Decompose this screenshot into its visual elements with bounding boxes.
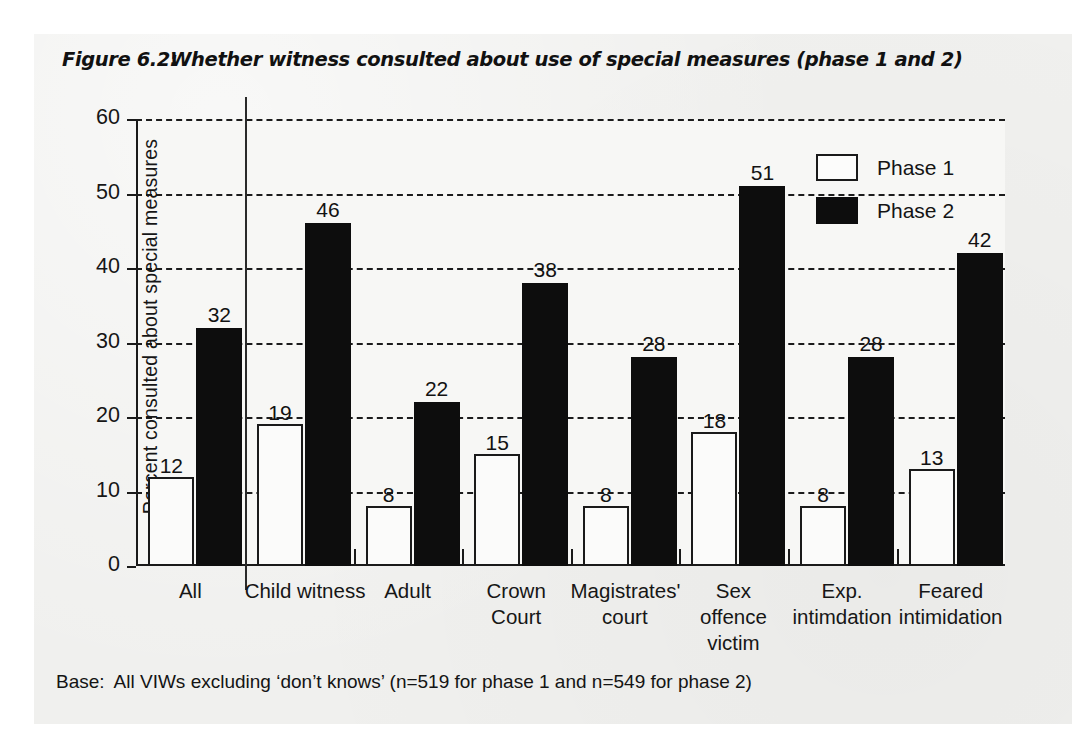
x-axis-tick xyxy=(462,549,464,566)
bar-phase-1[interactable]: 18 xyxy=(691,432,737,566)
x-category-label: Child witness xyxy=(245,578,354,604)
legend-item[interactable]: Phase 1 xyxy=(816,146,1006,189)
y-tick-mark-50 xyxy=(127,194,136,196)
x-category-line: Crown xyxy=(462,578,571,604)
x-category-label: Exp.intimdation xyxy=(788,578,897,630)
bar-phase-1[interactable]: 8 xyxy=(583,506,629,566)
bar-phase-2[interactable]: 22 xyxy=(414,402,460,566)
bar-phase-2[interactable]: 42 xyxy=(957,253,1003,566)
figure-title: Figure 6.2:Whether witness consulted abo… xyxy=(62,48,992,71)
bar-phase-2[interactable]: 32 xyxy=(196,328,242,566)
bar-phase-1[interactable]: 8 xyxy=(800,506,846,566)
x-category-line: Feared xyxy=(896,578,1005,604)
bar-value-label: 32 xyxy=(208,304,231,325)
x-category-line: court xyxy=(571,604,680,630)
bar-value-label: 42 xyxy=(968,229,991,250)
bar-phase-2[interactable]: 51 xyxy=(739,186,785,566)
bar-group: 1538 xyxy=(464,119,573,566)
x-category-label: Magistrates'court xyxy=(571,578,680,630)
y-tick-mark-0 xyxy=(127,566,136,568)
x-category-line: Child witness xyxy=(245,578,354,604)
x-category-line: Exp. xyxy=(788,578,897,604)
x-category-label: CrownCourt xyxy=(462,578,571,630)
legend-swatch-phase-1 xyxy=(816,154,858,181)
y-tick-mark-60 xyxy=(127,119,136,121)
bar-value-label: 19 xyxy=(268,402,291,423)
x-axis-category-labels: AllChild witnessAdultCrownCourtMagistrat… xyxy=(136,578,1005,662)
legend-item[interactable]: Phase 2 xyxy=(816,189,1006,232)
bar-value-label: 15 xyxy=(486,432,509,453)
x-axis-tick xyxy=(897,549,899,566)
bar-value-label: 28 xyxy=(859,333,882,354)
bar-value-label: 8 xyxy=(383,484,395,505)
bar-value-label: 38 xyxy=(534,259,557,280)
bar-phase-1[interactable]: 12 xyxy=(148,477,194,566)
bar-phase-2[interactable]: 28 xyxy=(631,357,677,566)
x-category-line: offence xyxy=(679,604,788,630)
bar-value-label: 51 xyxy=(751,162,774,183)
legend-label: Phase 1 xyxy=(877,156,954,180)
bar-phase-1[interactable]: 8 xyxy=(366,506,412,566)
x-category-line: Magistrates' xyxy=(571,578,680,604)
x-category-line: All xyxy=(136,578,245,604)
x-category-line: victim xyxy=(679,630,788,656)
bar-value-label: 18 xyxy=(703,410,726,431)
bar-value-label: 28 xyxy=(642,333,665,354)
chart-legend: Phase 1Phase 2 xyxy=(816,146,1006,232)
footnote-text: All VIWs excluding ‘don’t knows’ (n=519 … xyxy=(114,671,752,692)
bar-value-label: 8 xyxy=(817,484,829,505)
x-category-label: Fearedintimidation xyxy=(896,578,1005,630)
y-tick-mark-20 xyxy=(127,417,136,419)
y-tick-mark-30 xyxy=(127,343,136,345)
legend-swatch-phase-2 xyxy=(816,197,858,224)
y-tick-mark-40 xyxy=(127,268,136,270)
x-category-line: intimidation xyxy=(896,604,1005,630)
bar-phase-2[interactable]: 46 xyxy=(305,223,351,566)
x-category-line: intimdation xyxy=(788,604,897,630)
group-separator-line xyxy=(245,97,247,590)
x-category-line: Adult xyxy=(353,578,462,604)
bar-phase-1[interactable]: 15 xyxy=(474,454,520,566)
x-axis-tick xyxy=(788,549,790,566)
bar-value-label: 46 xyxy=(316,199,339,220)
bar-value-label: 22 xyxy=(425,378,448,399)
bar-group: 1851 xyxy=(681,119,790,566)
bar-phase-2[interactable]: 38 xyxy=(522,283,568,566)
x-category-line: Court xyxy=(462,604,571,630)
bar-group: 822 xyxy=(355,119,464,566)
x-category-label: All xyxy=(136,578,245,604)
legend-label: Phase 2 xyxy=(877,199,954,223)
footnote: Base:All VIWs excluding ‘don’t knows’ (n… xyxy=(56,671,752,693)
bar-value-label: 12 xyxy=(160,455,183,476)
x-axis-tick xyxy=(571,549,573,566)
x-category-label: Sexoffencevictim xyxy=(679,578,788,656)
x-category-line: Sex xyxy=(679,578,788,604)
x-category-label: Adult xyxy=(353,578,462,604)
bar-group: 828 xyxy=(573,119,682,566)
x-axis-tick xyxy=(354,549,356,566)
figure-title-text: Whether witness consulted about use of s… xyxy=(170,48,962,71)
bar-phase-1[interactable]: 19 xyxy=(257,424,303,566)
bar-phase-1[interactable]: 13 xyxy=(909,469,955,566)
footnote-lead: Base: xyxy=(56,671,105,692)
bar-group: 1946 xyxy=(247,119,356,566)
bar-phase-2[interactable]: 28 xyxy=(848,357,894,566)
bar-value-label: 8 xyxy=(600,484,612,505)
y-tick-mark-10 xyxy=(127,492,136,494)
bar-group: 1232 xyxy=(138,119,247,566)
bar-value-label: 13 xyxy=(920,447,943,468)
x-axis-tick xyxy=(679,549,681,566)
